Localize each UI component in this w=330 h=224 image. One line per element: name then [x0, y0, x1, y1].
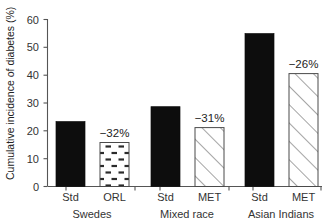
- cat-label-swedes-std: Std: [62, 191, 79, 203]
- delta-label-swedes: −32%: [100, 127, 130, 139]
- y-tick-label-60: 60: [27, 14, 39, 26]
- chart-canvas: Cumulative incidence of diabetes (%) 60 …: [0, 0, 330, 224]
- bar-swedes-std: [56, 122, 85, 187]
- delta-label-asian: −26%: [289, 58, 319, 70]
- bar-mixed-std: [151, 107, 180, 187]
- delta-label-mixed: −31%: [195, 112, 225, 124]
- bar-asian-met: [289, 74, 318, 187]
- group-label-mixed: Mixed race: [160, 208, 214, 220]
- group-swedes: −32% Std ORL Swedes: [56, 122, 129, 220]
- cat-label-swedes-orl: ORL: [103, 191, 126, 203]
- cat-label-mixed-std: Std: [157, 191, 174, 203]
- bar-asian-std: [245, 34, 274, 187]
- group-label-swedes: Swedes: [72, 208, 112, 220]
- cat-label-asian-std: Std: [251, 191, 268, 203]
- bar-mixed-met: [195, 128, 224, 187]
- bar-swedes-orl: [100, 143, 129, 187]
- y-tick-label-10: 10: [27, 153, 39, 165]
- group-mixed-race: −31% Std MET Mixed race: [151, 107, 224, 220]
- x-axis-group: [48, 187, 323, 191]
- y-axis-group: Cumulative incidence of diabetes (%) 60 …: [4, 7, 48, 193]
- y-axis-title: Cumulative incidence of diabetes (%): [4, 7, 16, 180]
- y-tick-label-20: 20: [27, 125, 39, 137]
- group-asian-indians: −26% Std MET Asian Indians: [245, 34, 318, 220]
- y-tick-label-40: 40: [27, 69, 39, 81]
- y-tick-label-50: 50: [27, 41, 39, 53]
- cat-label-asian-met: MET: [292, 191, 316, 203]
- bar-chart: Cumulative incidence of diabetes (%) 60 …: [0, 0, 330, 224]
- y-tick-label-0: 0: [33, 181, 39, 193]
- y-tick-label-30: 30: [27, 97, 39, 109]
- cat-label-mixed-met: MET: [198, 191, 222, 203]
- group-label-asian: Asian Indians: [248, 208, 315, 220]
